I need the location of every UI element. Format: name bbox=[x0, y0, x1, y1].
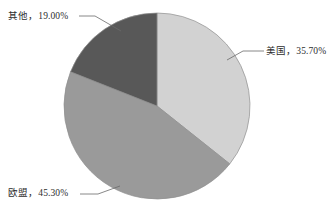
pie-label-us: 美国，35.70% bbox=[266, 46, 326, 57]
pie-label-other: 其他，19.00% bbox=[8, 11, 68, 22]
pie-chart-canvas bbox=[0, 0, 336, 212]
pie-label-eu: 欧盟，45.30% bbox=[8, 188, 68, 199]
pie-chart: 其他，19.00% 美国，35.70% 欧盟，45.30% bbox=[0, 0, 336, 212]
